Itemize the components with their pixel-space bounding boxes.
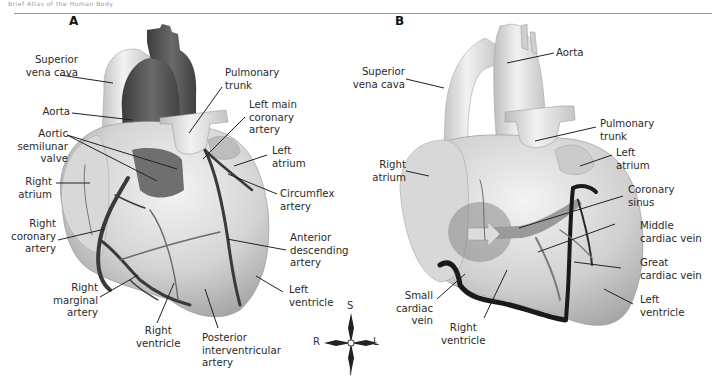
label-b-left-atrium: Left atrium [616, 147, 650, 172]
label-b-middle-cardiac-vein: Middle cardiac vein [640, 220, 702, 245]
label-b-right-ventricle: Right ventricle [441, 322, 485, 347]
label-b-small-cardiac-vein: Small cardiac vein [396, 290, 433, 328]
label-a-left-ventricle: Left ventricle [289, 284, 333, 309]
label-a-left-main-coronary-artery: Left main coronary artery [249, 99, 297, 137]
panel-label-b: B [395, 14, 404, 28]
label-b-left-ventricle: Left ventricle [640, 294, 684, 319]
label-a-right-coronary-artery: Right coronary artery [11, 218, 56, 256]
label-a-pulmonary-trunk: Pulmonary trunk [225, 67, 279, 92]
heart-illustrations [0, 0, 712, 382]
label-a-posterior-interventricular-artery: Posterior interventricular artery [202, 332, 281, 370]
label-b-coronary-sinus: Coronary sinus [628, 184, 674, 209]
label-a-left-atrium: Left atrium [272, 145, 306, 170]
compass-left: L [373, 336, 379, 347]
label-a-right-atrium: Right atrium [18, 176, 52, 201]
compass-superior: S [347, 300, 353, 311]
panel-label-a: A [69, 14, 78, 28]
label-a-anterior-descending-artery: Anterior descending artery [290, 232, 349, 270]
label-b-superior-vena-cava: Superior vena cava [353, 66, 405, 91]
orientation-compass-icon [324, 313, 378, 373]
label-b-aorta: Aorta [556, 47, 583, 60]
heart-posterior-view [400, 24, 643, 325]
label-a-right-ventricle: Right ventricle [136, 325, 180, 350]
label-b-right-atrium: Right atrium [372, 159, 406, 184]
label-a-right-marginal-artery: Right marginal artery [53, 282, 98, 320]
label-a-aorta: Aorta [43, 106, 70, 119]
label-b-great-cardiac-vein: Great cardiac vein [640, 257, 702, 282]
label-a-superior-vena-cava: Superior vena cava [26, 54, 78, 79]
label-b-pulmonary-trunk: Pulmonary trunk [600, 118, 654, 143]
label-a-aortic-semilunar-valve: Aortic semilunar valve [17, 128, 68, 166]
compass-inferior: I [349, 366, 352, 377]
compass-right: R [313, 336, 320, 347]
label-a-circumflex-artery: Circumflex artery [280, 188, 334, 213]
